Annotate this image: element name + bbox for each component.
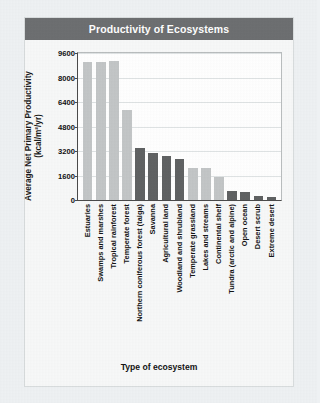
x-label-slot: Agricultural land [159,201,172,351]
y-axis-tick-label: 1600 [58,171,75,180]
x-axis-tick-label: Northern coniferous forest (taiga) [135,204,144,322]
x-axis-tick-label: Savanna [148,204,157,234]
x-label-slot: Desert scrub [251,201,264,351]
bar [122,110,132,200]
bar [96,62,106,200]
bar-slot [199,53,212,200]
x-axis-tick-label: Swamps and marshes [95,204,104,282]
bar [267,197,277,200]
bar [240,192,250,200]
y-axis-tick-label: 4800 [58,122,75,131]
x-label-slot: Savanna [146,201,159,351]
y-axis-tick-label: 6400 [58,98,75,107]
x-axis-tick-label: Temperate grassland [187,204,196,278]
x-label-slot: Northern coniferous forest (taiga) [133,201,146,351]
y-axis-tick-label: 9600 [58,49,75,58]
x-axis-tick-label: Estuaries [82,204,91,237]
bar-slot [239,53,252,200]
x-axis-tick-label: Tundra (arctic and alpine) [227,204,236,294]
x-label-slot: Temperate grassland [185,201,198,351]
bar-slot [265,53,278,200]
bar [109,61,119,200]
bar-slot [120,53,133,200]
bar [188,168,198,200]
x-axis-tick-labels: EstuariesSwamps and marshesTropical rain… [77,201,280,351]
plot-grid: 0160032004800640080009600 [77,52,282,201]
x-label-slot: Tropical rainforest [106,201,119,351]
bar [148,153,158,200]
bar [214,177,224,200]
y-axis-title-line2: (kcal/m²/yr) [34,114,43,158]
bar [254,196,264,200]
bar [227,191,237,200]
x-axis-tick-label: Tropical rainforest [108,204,117,268]
x-axis-tick-label: Agricultural land [161,204,170,263]
bar-slot [252,53,265,200]
x-label-slot: Swamps and marshes [93,201,106,351]
plot-area: Average Net Primary Productivity (kcal/m… [25,40,293,386]
bar [83,62,93,200]
x-label-slot: Open ocean [238,201,251,351]
x-label-slot: Tundra (arctic and alpine) [225,201,238,351]
x-axis-tick-label: Continental shelf [213,204,222,264]
x-label-slot: Continental shelf [211,201,224,351]
x-axis-title: Type of ecosystem [25,362,293,372]
bar [175,159,185,200]
bar-slot [94,53,107,200]
bar-series [78,53,281,200]
bar [162,156,172,200]
y-axis-tick-label: 3200 [58,147,75,156]
bar-slot [134,53,147,200]
y-axis-title-line1: Average Net Primary Productivity [24,71,33,201]
bar-slot [81,53,94,200]
bar-slot [107,53,120,200]
bar-slot [147,53,160,200]
x-axis-tick-label: Woodland and shrubland [174,204,183,293]
x-label-slot: Extreme desert [264,201,277,351]
chart-title: Productivity of Ecosystems [89,23,229,35]
bar [201,168,211,200]
bar-slot [160,53,173,200]
bar-slot [186,53,199,200]
x-label-slot: Lakes and streams [198,201,211,351]
chart-figure: Productivity of Ecosystems Average Net P… [25,18,293,386]
bar-slot [173,53,186,200]
x-axis-tick-label: Desert scrub [253,204,262,249]
x-axis-tick-label: Extreme desert [266,204,275,257]
y-axis-tick-label: 8000 [58,73,75,82]
chart-title-bar: Productivity of Ecosystems [25,18,293,40]
x-label-slot: Estuaries [80,201,93,351]
bar-slot [226,53,239,200]
x-label-slot: Temperate forest [119,201,132,351]
x-axis-tick-label: Open ocean [240,204,249,246]
y-axis-title: Average Net Primary Productivity (kcal/m… [22,0,36,60]
x-label-slot: Woodland and shrubland [172,201,185,351]
bar [135,148,145,200]
x-axis-tick-label: Temperate forest [121,204,130,263]
bar-slot [212,53,225,200]
x-axis-tick-label: Lakes and streams [200,204,209,271]
